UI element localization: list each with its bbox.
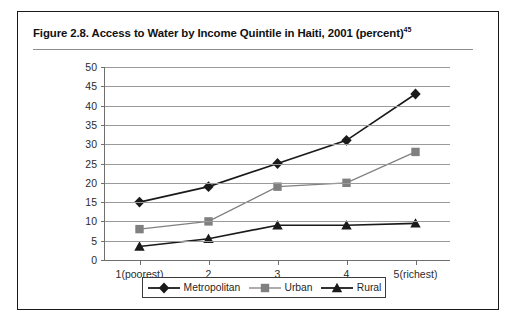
figure-frame: Figure 2.8. Access to Water by Income Qu… — [17, 11, 499, 310]
data-point-marker — [260, 283, 268, 291]
y-axis-tick — [101, 106, 105, 107]
y-axis-label: 35 — [85, 119, 97, 131]
data-point-marker — [158, 282, 168, 293]
plot-area: 051015202530354045501(poorest)2345(riche… — [104, 67, 450, 261]
x-axis-tick — [278, 260, 279, 265]
legend-item-label: Urban — [285, 282, 313, 293]
gridline — [105, 221, 450, 222]
y-axis-tick — [101, 67, 105, 68]
y-axis-label: 30 — [85, 138, 97, 150]
gridline — [105, 202, 450, 203]
y-axis-label: 20 — [85, 177, 97, 189]
data-point-marker — [410, 89, 420, 100]
y-axis-tick — [101, 125, 105, 126]
legend-item-metropolitan[interactable]: Metropolitan — [147, 281, 241, 295]
legend-item-label: Metropolitan — [184, 282, 241, 293]
y-axis-label: 40 — [85, 100, 97, 112]
data-point-marker — [411, 148, 419, 156]
square-marker-icon — [248, 281, 282, 295]
y-axis-label: 15 — [85, 196, 97, 208]
gridline — [105, 106, 450, 107]
diamond-marker-icon — [147, 281, 181, 295]
gridline — [105, 183, 450, 184]
y-axis-label: 25 — [85, 158, 97, 170]
chart: 051015202530354045501(poorest)2345(riche… — [18, 12, 500, 311]
y-axis-tick — [101, 221, 105, 222]
x-axis-tick — [140, 260, 141, 265]
y-axis-tick — [101, 202, 105, 203]
x-axis-label: 5(richest) — [394, 268, 438, 280]
y-axis-label: 45 — [85, 80, 97, 92]
y-axis-label: 5 — [91, 235, 97, 247]
y-axis-label: 0 — [91, 254, 97, 266]
y-axis-tick — [101, 183, 105, 184]
chart-legend: MetropolitanUrbanRural — [142, 277, 386, 298]
gridline — [105, 86, 450, 87]
y-axis-tick — [101, 86, 105, 87]
gridline — [105, 67, 450, 68]
y-axis-label: 10 — [85, 215, 97, 227]
gridline — [105, 241, 450, 242]
x-axis-tick — [347, 260, 348, 265]
x-axis-tick — [209, 260, 210, 265]
y-axis-label: 50 — [85, 61, 97, 73]
gridline — [105, 164, 450, 165]
y-axis-tick — [101, 164, 105, 165]
triangle-marker-icon — [320, 281, 354, 295]
data-point-marker — [135, 225, 143, 233]
y-axis-tick — [101, 241, 105, 242]
y-axis-tick — [101, 260, 105, 261]
gridline — [105, 144, 450, 145]
legend-item-rural[interactable]: Rural — [320, 281, 382, 295]
legend-item-urban[interactable]: Urban — [248, 281, 313, 295]
legend-item-label: Rural — [357, 282, 382, 293]
gridline — [105, 125, 450, 126]
x-axis-tick — [416, 260, 417, 265]
y-axis-tick — [101, 144, 105, 145]
